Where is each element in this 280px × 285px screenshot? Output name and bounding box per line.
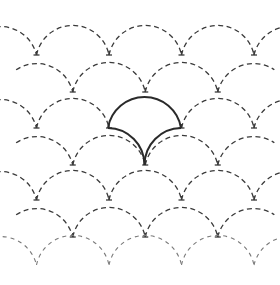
scale-arc-partial — [254, 27, 280, 55]
scale-arc — [182, 98, 255, 128]
scale-arc-partial — [0, 172, 36, 200]
scale-arc — [145, 62, 218, 92]
scale-arc-partial — [254, 172, 280, 200]
highlight-top-arc — [108, 97, 181, 128]
scale-arc — [145, 135, 218, 165]
scale-arc-partial — [254, 100, 280, 128]
scale-arc — [73, 207, 146, 237]
scale-arc-partial — [16, 137, 73, 165]
scale-arc — [73, 62, 146, 92]
scale-arc — [37, 235, 110, 265]
scale-arc — [109, 235, 182, 265]
scale-arc-partial — [218, 209, 275, 237]
scale-arc — [109, 170, 182, 200]
highlighted-scale — [108, 97, 181, 165]
scale-arc-partial — [16, 64, 73, 92]
scale-arc — [182, 235, 255, 265]
scale-arc — [109, 25, 182, 55]
scale-arc — [182, 170, 255, 200]
scale-arc — [182, 25, 255, 55]
scale-arc-partial — [0, 27, 36, 55]
scale-pattern-diagram — [0, 0, 280, 285]
highlight-right-arc — [145, 128, 182, 165]
scale-arc-partial — [0, 237, 36, 265]
scale-arc-partial — [254, 237, 280, 265]
scale-arc-partial — [218, 137, 275, 165]
scale-arc — [37, 170, 110, 200]
scale-arc — [145, 207, 218, 237]
highlight-left-arc — [108, 128, 145, 165]
scale-arc-partial — [218, 64, 275, 92]
scale-arc — [37, 98, 110, 128]
scale-arc-partial — [16, 209, 73, 237]
scale-arc — [37, 25, 110, 55]
scale-arc-partial — [0, 100, 36, 128]
